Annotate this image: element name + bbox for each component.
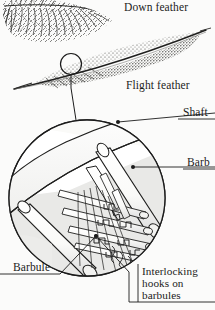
feather-structure-figure: Down feather Flight feather Shaft Barb B… bbox=[0, 0, 215, 310]
label-down-feather: Down feather bbox=[124, 1, 188, 13]
label-interlocking-hooks-line2: hooks on bbox=[142, 277, 212, 289]
label-flight-feather: Flight feather bbox=[126, 79, 190, 91]
label-barbule: Barbule bbox=[13, 261, 50, 273]
label-interlocking-hooks-line1: Interlocking bbox=[142, 265, 212, 277]
label-interlocking-hooks-line3: barbules bbox=[142, 289, 212, 301]
label-barb: Barb bbox=[187, 156, 210, 168]
label-interlocking-hooks: Interlocking hooks on barbules bbox=[142, 265, 212, 301]
label-shaft: Shaft bbox=[183, 106, 208, 118]
